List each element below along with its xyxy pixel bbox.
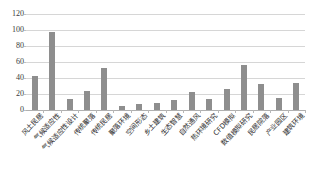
x-axis-tick-mark <box>96 110 97 113</box>
x-axis-tick-mark <box>113 110 114 113</box>
bar <box>101 68 107 110</box>
bar <box>224 89 230 110</box>
gridline <box>26 78 305 79</box>
x-axis-tick-mark <box>61 110 62 113</box>
gridline <box>26 62 305 63</box>
x-axis-tick-mark <box>78 110 79 113</box>
bar <box>32 76 38 110</box>
bar <box>241 65 247 110</box>
bar <box>189 92 195 110</box>
x-axis-labels: 风土民居气候适应性气候适应性设计传统聚落传统民居聚落环境空间形态乡土建筑生态智慧… <box>26 110 305 184</box>
gridline <box>26 46 305 47</box>
gridline <box>26 30 305 31</box>
y-axis-tick-label: 80 <box>0 42 24 50</box>
bar <box>154 103 160 110</box>
bar <box>84 91 90 110</box>
bar <box>67 99 73 110</box>
y-axis-tick-label: 60 <box>0 58 24 66</box>
x-axis-tick-mark <box>166 110 167 113</box>
y-axis-tick-label: 0 <box>0 106 24 114</box>
y-axis-tick-label: 20 <box>0 90 24 98</box>
bar <box>258 84 264 110</box>
y-axis-tick-label: 120 <box>0 10 24 18</box>
x-axis-tick-mark <box>200 110 201 113</box>
x-axis-tick-mark <box>148 110 149 113</box>
y-axis-tick-label: 40 <box>0 74 24 82</box>
y-axis: 120100806040200 <box>0 14 24 110</box>
bar <box>293 83 299 110</box>
x-axis-tick-mark <box>131 110 132 113</box>
x-axis-tick-mark <box>235 110 236 113</box>
bar <box>49 32 55 110</box>
bar <box>276 98 282 110</box>
bar <box>206 99 212 110</box>
x-axis-tick-mark <box>270 110 271 113</box>
x-axis-tick-mark <box>288 110 289 113</box>
y-axis-tick-label: 100 <box>0 26 24 34</box>
plot-area <box>26 14 305 110</box>
x-axis-tick-mark <box>253 110 254 113</box>
bar <box>171 100 177 110</box>
x-axis-tick-mark <box>43 110 44 113</box>
x-axis-tick-mark <box>183 110 184 113</box>
gridline <box>26 14 305 15</box>
x-axis-tick-mark <box>305 110 306 113</box>
bar-chart: 120100806040200 风土民居气候适应性气候适应性设计传统聚落传统民居… <box>0 0 311 184</box>
x-axis-tick-mark <box>218 110 219 113</box>
